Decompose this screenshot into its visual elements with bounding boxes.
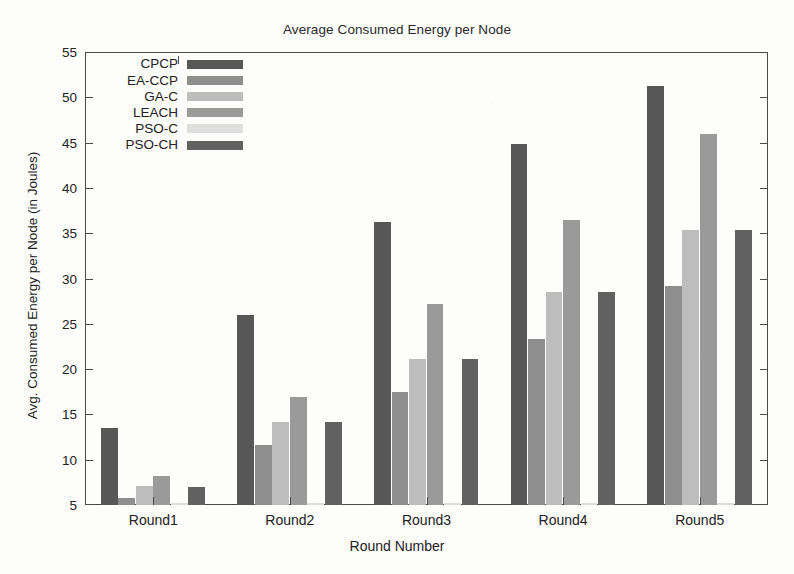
legend-swatch bbox=[187, 124, 243, 133]
legend-swatch bbox=[187, 92, 243, 101]
legend-label: GA-C bbox=[92, 90, 187, 104]
legend-label: PSO-C bbox=[92, 122, 187, 136]
bar-ea-ccp-round5 bbox=[665, 286, 682, 505]
bar-pso-ch-round5 bbox=[735, 230, 752, 505]
legend-swatch bbox=[187, 108, 243, 117]
x-tick-label-round1: Round1 bbox=[98, 512, 208, 528]
bar-pso-ch-round2 bbox=[325, 422, 342, 505]
x-tick-label-round2: Round2 bbox=[235, 512, 345, 528]
x-tick-label-round3: Round3 bbox=[372, 512, 482, 528]
bar-ga-c-round2 bbox=[272, 422, 289, 505]
y-tick-label: 5 bbox=[31, 498, 77, 513]
chart-canvas: Average Consumed Energy per Node 5101520… bbox=[0, 0, 794, 574]
x-tick bbox=[563, 497, 564, 505]
bar-cpcp-round5 bbox=[647, 86, 664, 505]
bar-leach-round3 bbox=[427, 304, 444, 505]
bar-ga-c-round4 bbox=[546, 292, 563, 505]
bar-pso-c-round1 bbox=[171, 503, 188, 505]
legend-label: PSO-CH bbox=[92, 138, 187, 152]
legend: CPCPEA-CCPGA-CLEACHPSO-CPSO-CH bbox=[92, 56, 243, 153]
legend-key-tick bbox=[178, 56, 179, 64]
x-tick-label-round4: Round4 bbox=[508, 512, 618, 528]
bar-pso-ch-round1 bbox=[188, 487, 205, 505]
legend-label: CPCP bbox=[92, 57, 187, 71]
bar-leach-round4 bbox=[563, 220, 580, 505]
legend-item-ga-c: GA-C bbox=[92, 88, 243, 104]
x-tick-label-round5: Round5 bbox=[645, 512, 755, 528]
y-tick-label: 50 bbox=[31, 90, 77, 105]
legend-item-pso-c: PSO-C bbox=[92, 121, 243, 137]
bar-cpcp-round1 bbox=[101, 428, 118, 505]
x-tick bbox=[290, 497, 291, 505]
bar-ea-ccp-round3 bbox=[392, 392, 409, 505]
bar-pso-ch-round3 bbox=[462, 359, 479, 505]
bar-leach-round5 bbox=[700, 134, 717, 505]
bar-cpcp-round3 bbox=[374, 222, 391, 505]
legend-swatch bbox=[187, 60, 243, 69]
x-axis-title: Round Number bbox=[0, 538, 794, 554]
legend-item-leach: LEACH bbox=[92, 105, 243, 121]
y-axis-title: Avg. Consumed Energy per Node (in Joules… bbox=[25, 116, 40, 456]
x-tick bbox=[153, 497, 154, 505]
bar-pso-c-round5 bbox=[717, 503, 734, 505]
bar-pso-ch-round4 bbox=[598, 292, 615, 505]
bar-ea-ccp-round2 bbox=[255, 445, 272, 505]
bar-cpcp-round2 bbox=[237, 315, 254, 505]
bar-leach-round2 bbox=[290, 397, 307, 505]
y-tick-label: 55 bbox=[31, 45, 77, 60]
bar-pso-c-round2 bbox=[307, 503, 324, 505]
x-tick bbox=[427, 497, 428, 505]
bar-leach-round1 bbox=[153, 476, 170, 505]
bar-pso-c-round4 bbox=[581, 503, 598, 505]
bar-ga-c-round3 bbox=[409, 359, 426, 505]
legend-item-pso-ch: PSO-CH bbox=[92, 137, 243, 153]
bar-ga-c-round1 bbox=[136, 486, 153, 505]
bar-ea-ccp-round4 bbox=[528, 339, 545, 505]
legend-label: LEACH bbox=[92, 106, 187, 120]
legend-swatch bbox=[187, 141, 243, 150]
legend-label: EA-CCP bbox=[92, 74, 187, 88]
bar-ga-c-round5 bbox=[682, 230, 699, 505]
legend-item-ea-ccp: EA-CCP bbox=[92, 72, 243, 88]
bar-pso-c-round3 bbox=[444, 503, 461, 505]
x-tick bbox=[700, 497, 701, 505]
legend-swatch bbox=[187, 76, 243, 85]
bar-cpcp-round4 bbox=[511, 144, 528, 505]
legend-item-cpcp: CPCP bbox=[92, 56, 243, 72]
bar-ea-ccp-round1 bbox=[118, 498, 135, 505]
